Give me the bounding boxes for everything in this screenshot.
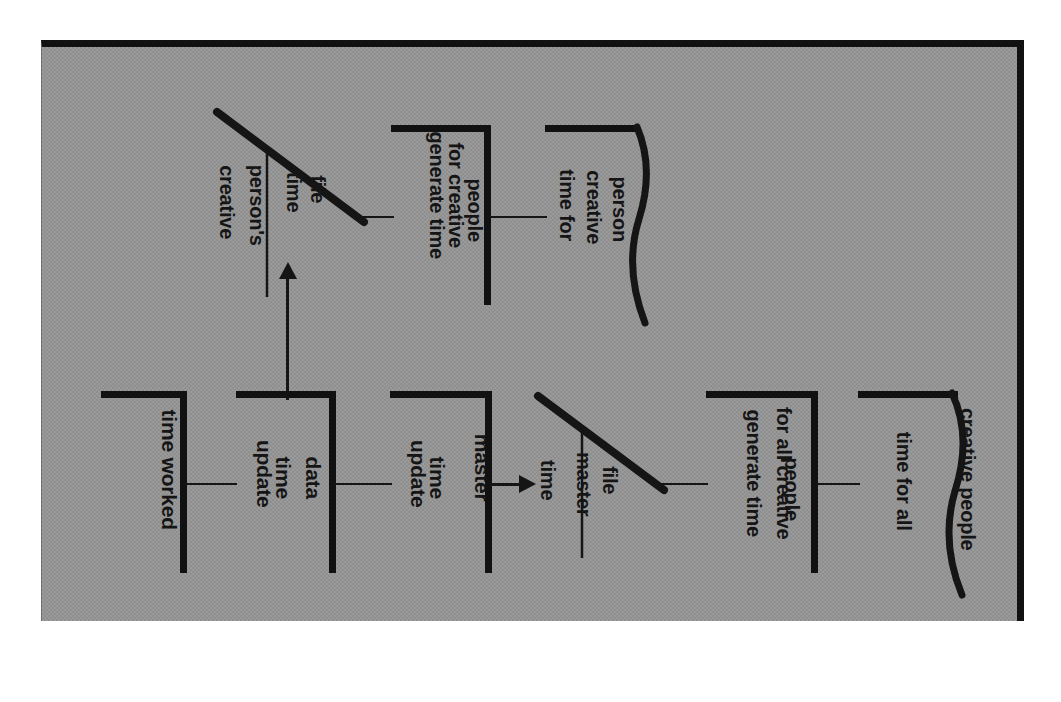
process-update-time-data-text: update time data — [236, 391, 336, 573]
document-time-for-all-creative-people: time for all creative people — [858, 391, 958, 586]
arrowhead-up-to-store — [279, 262, 297, 279]
store-label-right-1: time — [284, 172, 304, 212]
connector-store-to-generate-creative — [358, 216, 394, 218]
store-label-left-2: person's — [246, 165, 266, 246]
data-store-time-master-file-text: time master file — [534, 392, 662, 577]
store-label-right-2: file — [308, 175, 328, 203]
process-update-time-master: update time master — [390, 391, 492, 573]
connector-update-data-to-store — [286, 275, 289, 400]
document-label-line-2: creative people — [957, 408, 977, 551]
process-generate-time-for-all-creative-people-text: generate time for all creative people — [706, 391, 818, 573]
process-label-line-3: master — [471, 434, 492, 502]
process-time-worked: time worked — [101, 391, 187, 573]
process-label-line-2: time — [426, 457, 447, 499]
process-label-line-1: time worked — [158, 410, 179, 530]
store-label-left-2: master — [574, 452, 594, 516]
screenshot-page: creative person's time file gener — [0, 0, 1061, 702]
process-update-time-data: update time data — [236, 391, 336, 573]
process-label-line-2: time — [272, 457, 293, 499]
process-label-line-3: people — [464, 179, 484, 242]
process-label-line-3: people — [781, 458, 801, 521]
data-store-time-master-file: time master file — [534, 392, 662, 577]
document-label-line-3: person — [610, 176, 630, 241]
store-label-right-1: file — [600, 466, 620, 494]
process-generate-time-for-creative-people: generate time for creative people — [391, 125, 491, 305]
connector-generate-creative-to-doc — [489, 216, 547, 218]
process-generate-time-for-all-creative-people: generate time for all creative people — [706, 391, 818, 573]
document-time-for-creative-person-text: time for creative person — [545, 125, 640, 315]
connector-update-master-to-store — [490, 483, 522, 486]
process-label-line-3: data — [302, 457, 323, 499]
process-update-time-master-text: update time master — [390, 391, 492, 573]
diagram-frame: creative person's time file gener — [41, 40, 1024, 621]
document-time-for-creative-person: time for creative person — [545, 125, 640, 315]
document-time-for-all-creative-people-text: time for all creative people — [858, 391, 958, 586]
process-generate-time-for-creative-people-text: generate time for creative people — [391, 125, 491, 305]
process-time-worked-text: time worked — [101, 391, 187, 573]
